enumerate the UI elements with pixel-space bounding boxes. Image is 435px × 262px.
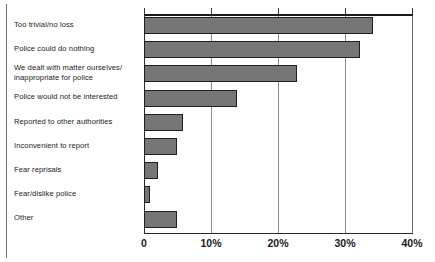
bar: [144, 90, 237, 107]
category-label: Reported to other authorities: [14, 117, 142, 128]
category-label-line: We dealt with matter ourselves/: [14, 63, 142, 74]
category-label: We dealt with matter ourselves/inappropr…: [14, 63, 142, 84]
category-label: Police would not be interested: [14, 92, 142, 103]
category-label-line: Other: [14, 213, 142, 224]
bar: [144, 17, 373, 34]
top-tick-0: [144, 8, 145, 14]
x-tick-label: 0: [141, 237, 147, 249]
x-tick-label: 40%: [401, 237, 422, 249]
top-tick-30: [345, 8, 346, 14]
bar: [144, 186, 150, 203]
category-label: Fear reprisals: [14, 165, 142, 176]
bar: [144, 114, 183, 131]
category-label: Too trivial/no loss: [14, 20, 142, 31]
x-tick-label: 30%: [334, 237, 355, 249]
x-tick-label: 10%: [200, 237, 221, 249]
category-label: Police could do nothing: [14, 44, 142, 55]
category-label-line: Too trivial/no loss: [14, 20, 142, 31]
top-tick-40: [412, 8, 413, 14]
plot-area: [144, 16, 412, 234]
bar: [144, 138, 177, 155]
bar: [144, 162, 158, 179]
category-label: Other: [14, 213, 142, 224]
category-label-line: Police could do nothing: [14, 44, 142, 55]
bar: [144, 211, 177, 228]
category-label-line: Fear reprisals: [14, 165, 142, 176]
bar: [144, 65, 297, 82]
top-tick-20: [278, 8, 279, 14]
x-tick-label: 20%: [267, 237, 288, 249]
bottom-axis-rule: [144, 233, 413, 234]
category-label-line: Inconvenient to report: [14, 141, 142, 152]
category-label-line: inappropriate for police: [14, 73, 142, 84]
category-label-line: Police would not be interested: [14, 92, 142, 103]
category-label-line: Fear/dislike police: [14, 189, 142, 200]
bar-chart-figure: Too trivial/no lossPolice could do nothi…: [0, 0, 435, 262]
gridline-40: [412, 16, 413, 234]
figure-left-rule: [6, 4, 7, 258]
category-label: Inconvenient to report: [14, 141, 142, 152]
category-label: Fear/dislike police: [14, 189, 142, 200]
category-label-line: Reported to other authorities: [14, 117, 142, 128]
bar: [144, 41, 360, 58]
top-tick-10: [211, 8, 212, 14]
